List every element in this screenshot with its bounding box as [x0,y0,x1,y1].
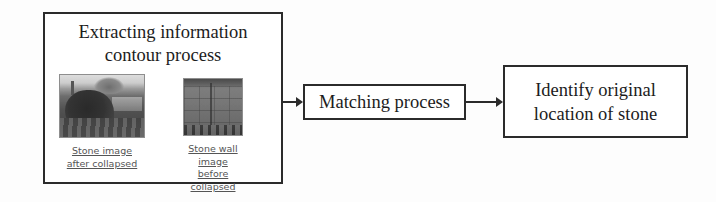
node-identify-label-line1: Identify original [535,78,656,102]
caption-stone-wall-image-before-collapsed: Stone wall image before collapsed [183,143,243,193]
arrow-right-icon-matching-to-identify [466,97,503,107]
node-extracting-information: Extracting information contour process S… [43,12,283,184]
node-identify-label: Identify original location of stone [505,67,686,136]
wall-top-band-region [184,79,242,86]
node-matching-label: Matching process [305,86,464,118]
wall-ledge-region [112,97,142,111]
photo-cell-stone-image-after-collapsed: Stone image after collapsed [59,74,145,170]
node-identify-label-line2: location of stone [534,102,657,126]
photo-cell-stone-wall-image-before-collapsed: Stone wall image before collapsed [183,78,243,193]
arrow-shaft [283,101,297,103]
arrow-head [296,97,303,107]
diagram-canvas: Extracting information contour process S… [0,0,716,202]
caption-right-line2: before collapsed [183,168,243,193]
arrow-right-icon-extracting-to-matching [283,97,303,107]
caption-stone-image-after-collapsed: Stone image after collapsed [59,145,145,170]
wall-base-band-region [184,125,242,135]
stone-wall-image-before-collapsed-photo [183,78,243,136]
caption-left-line2: after collapsed [59,158,145,171]
node-identify-original-location: Identify original location of stone [503,65,688,138]
stone-image-after-collapsed-photo [59,74,145,138]
caption-left-line1: Stone image [59,145,145,158]
node-extracting-title-line2: contour process [45,44,281,67]
node-extracting-title-line1: Extracting information [45,21,281,44]
rubble-region [60,118,144,137]
arrow-head [496,97,503,107]
arrow-shaft [466,101,497,103]
wall-crack-region [210,83,212,130]
node-extracting-title: Extracting information contour process [45,21,281,67]
caption-right-line1: Stone wall image [183,143,243,168]
node-matching-process: Matching process [303,84,466,120]
